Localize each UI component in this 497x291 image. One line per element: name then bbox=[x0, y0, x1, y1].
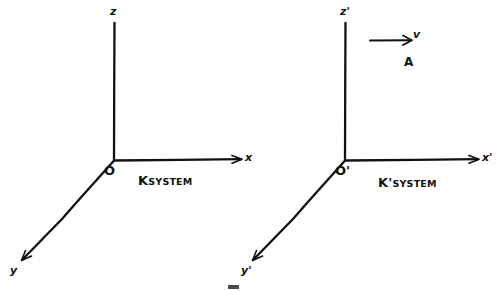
k-y-axis-label: y bbox=[10, 265, 17, 276]
k-z-axis-line bbox=[114, 23, 115, 160]
diagram-canvas bbox=[0, 0, 497, 291]
caption-stub-mark bbox=[228, 285, 239, 289]
k-x-axis-label: x bbox=[245, 152, 252, 163]
kprime-system-axes bbox=[253, 23, 480, 261]
physics-diagram-figure: z x y O KSYSTEM z' x' y' O' K'SYSTEM v A bbox=[0, 0, 497, 291]
velocity-label: v bbox=[413, 29, 420, 40]
kprime-system-name-suffix: SYSTEM bbox=[392, 178, 436, 189]
kprime-z-axis-label: z' bbox=[340, 6, 350, 17]
kprime-y-axis-line bbox=[253, 161, 345, 260]
velocity-arrow bbox=[370, 36, 412, 46]
point-a-label: A bbox=[404, 56, 413, 68]
kprime-z-axis-line bbox=[345, 23, 346, 160]
k-y-axis-line bbox=[22, 161, 114, 260]
kprime-y-axis-label: y' bbox=[241, 265, 252, 276]
k-origin-label: O bbox=[104, 164, 115, 177]
kprime-system-name-prefix: K' bbox=[378, 175, 392, 190]
k-system-name-prefix: K bbox=[138, 173, 148, 188]
k-system-name-suffix: SYSTEM bbox=[148, 176, 192, 187]
k-system-name: KSYSTEM bbox=[138, 174, 192, 187]
kprime-x-axis-label: x' bbox=[482, 152, 492, 163]
k-system-axes bbox=[22, 23, 243, 261]
kprime-system-name: K'SYSTEM bbox=[378, 176, 437, 189]
kprime-origin-label: O' bbox=[335, 164, 350, 177]
k-x-axis-line bbox=[114, 159, 241, 160]
kprime-x-axis-line bbox=[345, 159, 478, 160]
k-z-axis-label: z bbox=[110, 6, 116, 17]
